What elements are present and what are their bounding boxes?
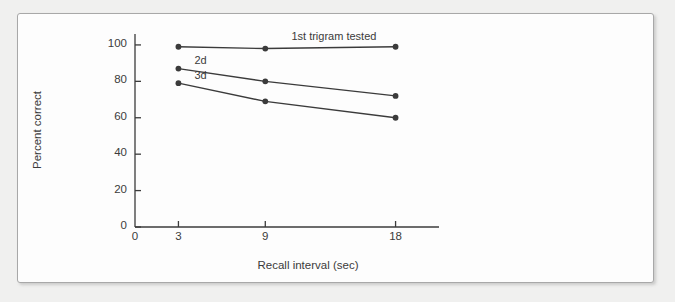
- data-point-marker: [393, 93, 399, 99]
- series-label-1: 1st trigram tested: [291, 30, 376, 42]
- y-tick-label: 80: [97, 73, 127, 85]
- y-axis-title: Percent correct: [31, 75, 43, 185]
- x-axis-title: Recall interval (sec): [178, 259, 438, 271]
- figure-panel: Percent correct Recall interval (sec) 02…: [17, 13, 654, 283]
- y-ticks-group: [135, 45, 141, 227]
- y-tick-label: 100: [97, 37, 127, 49]
- axes-group: [135, 34, 439, 227]
- x-tick-label: 9: [250, 230, 280, 242]
- data-point-marker: [176, 44, 182, 50]
- data-point-marker: [262, 98, 268, 104]
- chart-plot-area: Percent correct Recall interval (sec) 02…: [18, 14, 655, 284]
- data-point-marker: [393, 115, 399, 121]
- data-series-group: [176, 44, 399, 121]
- y-tick-label: 60: [97, 110, 127, 122]
- data-point-marker: [262, 78, 268, 84]
- series-line: [178, 47, 395, 49]
- data-point-marker: [393, 44, 399, 50]
- data-point-marker: [262, 46, 268, 52]
- x-tick-label: 0: [120, 230, 150, 242]
- series-label-3: 3d: [194, 69, 206, 81]
- series-line: [178, 69, 395, 96]
- x-ticks-group: [178, 221, 395, 227]
- x-tick-label: 3: [163, 230, 193, 242]
- series-label-2: 2d: [194, 54, 206, 66]
- series-line: [178, 83, 395, 118]
- screenshot-root: Percent correct Recall interval (sec) 02…: [0, 0, 675, 302]
- x-tick-label: 18: [381, 230, 411, 242]
- y-tick-label: 40: [97, 146, 127, 158]
- y-tick-label: 20: [97, 183, 127, 195]
- data-point-marker: [176, 66, 182, 72]
- data-point-marker: [176, 80, 182, 86]
